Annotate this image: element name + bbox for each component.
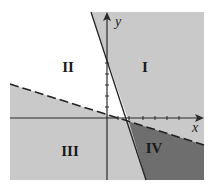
inequality-diagram: x y I II III IV — [0, 0, 213, 191]
y-axis-label: y — [113, 14, 122, 29]
x-axis-label: x — [191, 120, 199, 135]
region-IV-label: IV — [146, 140, 163, 156]
region-III-label: III — [61, 143, 79, 159]
region-I-label: I — [142, 59, 148, 75]
region-II-label: II — [62, 59, 74, 75]
